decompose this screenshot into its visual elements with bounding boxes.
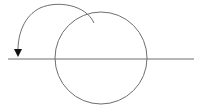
circle: [55, 12, 147, 104]
circle-rotation-diagram: [0, 0, 204, 108]
arrowhead-icon: [14, 49, 22, 57]
counter-clockwise-arrow-arc: [18, 4, 94, 50]
